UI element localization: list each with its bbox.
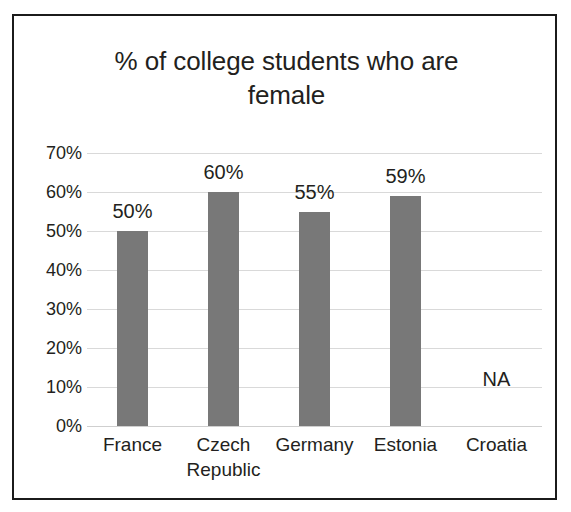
x-axis-tick-label: Estonia [356, 432, 456, 457]
x-axis-tick-label: Croatia [447, 432, 547, 457]
bar-value-label: 59% [361, 166, 451, 186]
y-axis-tick-label: 0% [20, 417, 82, 435]
x-axis-tick-label: Germany [265, 432, 365, 457]
axis-baseline [87, 426, 542, 427]
bar-value-label: 50% [88, 201, 178, 221]
y-axis-tick-label: 20% [20, 339, 82, 357]
y-axis: 70%60%50%40%30%20%10%0% [14, 153, 82, 426]
plot-area: 50%60%55%59%NA [87, 153, 542, 426]
x-axis: FranceCzech RepublicGermanyEstoniaCroati… [87, 432, 542, 496]
bar[interactable] [117, 231, 148, 426]
y-axis-tick-label: 40% [20, 261, 82, 279]
y-axis-tick-label: 60% [20, 183, 82, 201]
gridline [87, 153, 542, 154]
x-axis-tick-label: Czech Republic [174, 432, 274, 482]
y-axis-tick-label: 70% [20, 144, 82, 162]
bar-value-label: 60% [179, 162, 269, 182]
chart-frame: % of college students who are female 70%… [12, 14, 557, 500]
y-axis-tick-label: 50% [20, 222, 82, 240]
chart-title: % of college students who are female [44, 44, 529, 112]
bar[interactable] [390, 196, 421, 426]
y-axis-tick-label: 10% [20, 378, 82, 396]
x-axis-tick-label: France [83, 432, 183, 457]
bar[interactable] [208, 192, 239, 426]
na-annotation: NA [452, 369, 542, 389]
bar[interactable] [299, 212, 330, 427]
y-axis-tick-label: 30% [20, 300, 82, 318]
bar-value-label: 55% [270, 182, 360, 202]
